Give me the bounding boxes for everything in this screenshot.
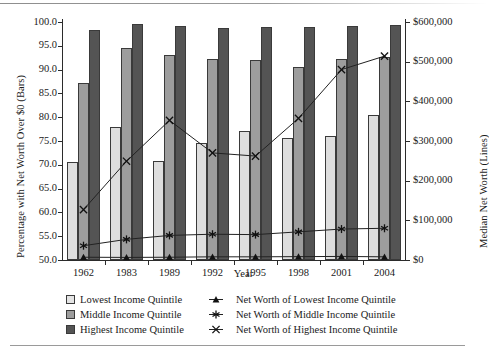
y-axis-left-tick	[58, 70, 62, 71]
x-axis-tick	[191, 261, 192, 265]
x-axis-tick	[234, 261, 235, 265]
y-axis-left-tick-label: 90.0	[39, 64, 57, 75]
plot-area: 50.055.060.065.070.075.080.085.090.095.0…	[62, 22, 406, 260]
legend-item-label: Net Worth of Lowest Income Quintile	[236, 294, 396, 305]
bar	[293, 67, 304, 260]
bar	[132, 24, 143, 260]
x-axis-tick-label: 1992	[191, 267, 234, 278]
bar	[164, 55, 175, 260]
x-axis-tick-label: 2004	[363, 267, 406, 278]
y-axis-left-tick-label: 75.0	[39, 136, 57, 147]
y-axis-right-tick	[406, 101, 410, 102]
y-axis-right-tick	[406, 62, 410, 63]
y-axis-left-tick-label: 50.0	[39, 255, 57, 266]
legend-item-label: Highest Income Quintile	[80, 324, 184, 335]
legend-item: Net Worth of Middle Income Quintile	[208, 307, 397, 322]
x-axis-tick-label: 1989	[148, 267, 191, 278]
bottom-divider	[10, 345, 465, 346]
y-axis-right-tick	[406, 260, 410, 261]
x-axis-tick	[148, 261, 149, 265]
y-axis-left-tick	[58, 93, 62, 94]
y-axis-left-tick	[58, 165, 62, 166]
bar	[379, 57, 390, 260]
y-axis-left-line	[62, 19, 63, 260]
square-dark-icon	[66, 325, 75, 334]
bar	[78, 83, 89, 260]
y-axis-right-tick-label: $500,000	[413, 56, 452, 67]
y-axis-left-tick-label: 95.0	[39, 40, 57, 51]
bar	[347, 26, 358, 260]
triangle-marker-icon	[208, 294, 232, 305]
legend-item: Net Worth of Highest Income Quintile	[208, 322, 397, 337]
chart-legend: Lowest Income QuintileMiddle Income Quin…	[0, 292, 487, 342]
legend-item-label: Net Worth of Highest Income Quintile	[236, 324, 397, 335]
bar	[207, 59, 218, 260]
bar	[261, 27, 272, 260]
bar	[325, 136, 336, 260]
y-axis-left-tick	[58, 189, 62, 190]
y-axis-left-tick-label: 85.0	[39, 88, 57, 99]
bar	[250, 60, 261, 260]
y-axis-right-tick	[406, 220, 410, 221]
square-light-icon	[66, 295, 75, 304]
bar	[110, 127, 121, 260]
y-axis-right-tick	[406, 181, 410, 182]
y-axis-right-tick-label: $100,000	[413, 215, 452, 226]
bar	[239, 131, 250, 260]
bar	[89, 30, 100, 260]
bar	[390, 25, 401, 260]
bar	[175, 26, 186, 260]
y-axis-left-tick	[58, 22, 62, 23]
x-axis-tick	[363, 261, 364, 265]
cross-marker-icon	[208, 324, 232, 335]
x-axis-tick	[105, 261, 106, 265]
y-axis-right-tick-label: $300,000	[413, 136, 452, 147]
y-axis-right-tick-label: $600,000	[413, 17, 452, 28]
x-axis-tick	[277, 261, 278, 265]
legend-item: Lowest Income Quintile	[66, 292, 184, 307]
y-axis-left-tick-label: 55.0	[39, 231, 57, 242]
bar	[67, 162, 78, 260]
bar	[336, 59, 347, 260]
y-axis-right-tick	[406, 141, 410, 142]
y-axis-right-tick-label: $400,000	[413, 96, 452, 107]
y-axis-left-tick	[58, 117, 62, 118]
y-axis-left-tick-label: 60.0	[39, 207, 57, 218]
bar	[282, 138, 293, 260]
bar	[368, 115, 379, 260]
y-axis-left-tick-label: 70.0	[39, 159, 57, 170]
y-axis-left-tick-label: 100.0	[33, 17, 57, 28]
y-axis-left-tick-label: 80.0	[39, 112, 57, 123]
x-axis-tick-label: 2001	[320, 267, 363, 278]
y-axis-left-tick	[58, 46, 62, 47]
y-axis-left-tick	[58, 141, 62, 142]
legend-item-label: Lowest Income Quintile	[80, 294, 182, 305]
legend-item: Highest Income Quintile	[66, 322, 184, 337]
legend-item-label: Middle Income Quintile	[80, 309, 181, 320]
y-axis-left-tick	[58, 260, 62, 261]
bar	[304, 27, 315, 260]
square-medium-icon	[66, 310, 75, 319]
legend-line-series: Net Worth of Lowest Income QuintileNet W…	[208, 292, 397, 337]
y-axis-right-tick-label: $200,000	[413, 175, 452, 186]
y-axis-right-line	[405, 19, 406, 260]
legend-item: Middle Income Quintile	[66, 307, 184, 322]
y-axis-right-title: Median Net Worth (Lines)	[478, 134, 489, 248]
legend-item: Net Worth of Lowest Income Quintile	[208, 292, 397, 307]
x-axis-tick-label: 1998	[277, 267, 320, 278]
legend-bar-series: Lowest Income QuintileMiddle Income Quin…	[66, 292, 184, 337]
y-axis-right-tick-label: $0	[413, 255, 424, 266]
bar	[153, 161, 164, 260]
x-axis-tick-label: 1983	[105, 267, 148, 278]
bar	[121, 48, 132, 260]
y-axis-right-tick	[406, 22, 410, 23]
y-axis-left-title: Percentage with Net Worth Over $0 (Bars)	[15, 75, 26, 258]
x-axis-tick	[320, 261, 321, 265]
bar	[196, 143, 207, 260]
x-axis-tick-label: 1962	[62, 267, 105, 278]
legend-item-label: Net Worth of Middle Income Quintile	[236, 309, 395, 320]
top-divider	[0, 3, 487, 4]
asterisk-marker-icon	[208, 309, 232, 320]
bar	[218, 28, 229, 260]
